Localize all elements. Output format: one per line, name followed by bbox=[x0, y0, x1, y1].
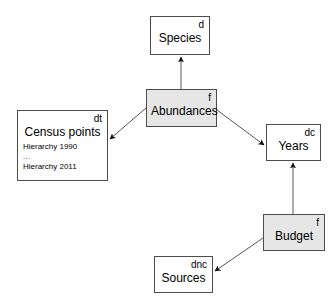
node-census-points-row: Hierarchy 1990 bbox=[23, 141, 107, 152]
edge-budget-to-sources bbox=[215, 238, 263, 271]
node-years-title: Years bbox=[267, 139, 320, 155]
node-species-marker: d bbox=[151, 17, 209, 31]
node-sources[interactable]: dnc Sources bbox=[154, 256, 213, 293]
node-budget-title: Budget bbox=[264, 229, 324, 245]
node-years-marker: dc bbox=[267, 125, 320, 139]
node-species[interactable]: d Species bbox=[150, 16, 210, 55]
node-species-title: Species bbox=[151, 31, 209, 47]
node-budget-marker: f bbox=[264, 215, 324, 229]
node-abundances-title: Abundances bbox=[147, 104, 216, 120]
node-sources-marker: dnc bbox=[155, 257, 212, 271]
diagram-canvas: d Species f Abundances dt Census points … bbox=[0, 0, 336, 305]
node-census-points[interactable]: dt Census points Hierarchy 1990 ... Hier… bbox=[17, 110, 108, 181]
node-census-points-marker: dt bbox=[18, 111, 107, 125]
node-abundances[interactable]: f Abundances bbox=[146, 89, 217, 127]
node-census-points-row: Hierarchy 2011 bbox=[23, 161, 107, 172]
node-years[interactable]: dc Years bbox=[266, 124, 321, 161]
edge-abundances-to-years bbox=[217, 110, 264, 145]
node-abundances-marker: f bbox=[147, 90, 216, 104]
node-budget[interactable]: f Budget bbox=[263, 214, 325, 251]
node-census-points-row: ... bbox=[23, 152, 107, 161]
node-census-points-rows: Hierarchy 1990 ... Hierarchy 2011 bbox=[18, 141, 107, 174]
node-sources-title: Sources bbox=[155, 271, 212, 287]
node-census-points-title: Census points bbox=[18, 125, 107, 141]
edge-abundances-to-census bbox=[110, 108, 146, 139]
